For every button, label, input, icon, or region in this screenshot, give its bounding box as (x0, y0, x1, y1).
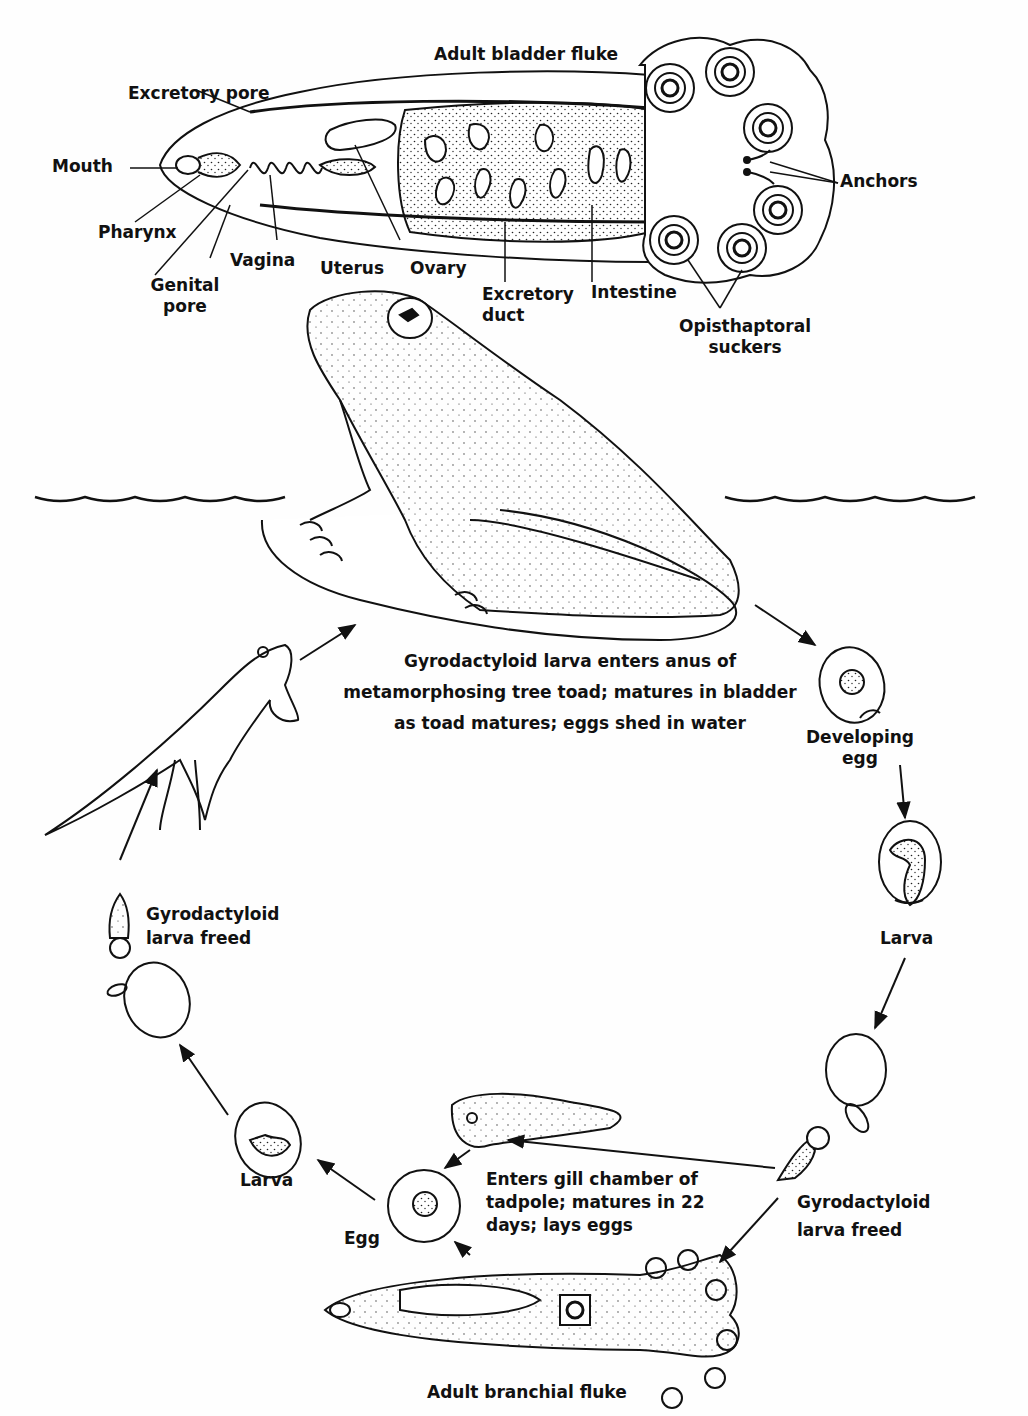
label-uterus: Uterus (320, 258, 384, 279)
label-vagina: Vagina (230, 250, 295, 271)
label-larva-left: Larva (240, 1170, 293, 1191)
empty-egg-right (826, 1034, 886, 1136)
gyrodactyloid-larva-left (109, 894, 130, 958)
label-opisthaptoral-suckers: Opisthaptoral suckers (665, 316, 825, 358)
empty-egg-left (106, 953, 200, 1046)
label-mouth: Mouth (52, 156, 113, 177)
tadpole (452, 1094, 621, 1147)
caption-toad-stage: Gyrodactyloid larva enters anus of metam… (340, 646, 800, 739)
label-anchors: Anchors (840, 171, 918, 192)
label-larva-freed-left: Gyrodactyloid larva freed (146, 902, 280, 950)
label-pharynx: Pharynx (98, 222, 177, 243)
title-adult-bladder-fluke: Adult bladder fluke (434, 44, 618, 65)
caption-tadpole-stage: Enters gill chamber of tadpole; matures … (486, 1168, 705, 1237)
developing-egg (811, 640, 892, 730)
label-egg: Egg (344, 1228, 380, 1249)
label-excretory-duct: Excretory duct (482, 284, 574, 326)
life-cycle-diagram: Adult bladder fluke Excretory pore Mouth… (0, 0, 1028, 1416)
label-developing-egg: Developing egg (805, 727, 915, 769)
label-genital-pore: Genital pore (140, 275, 230, 317)
label-larva-right: Larva (880, 928, 933, 949)
label-larva-freed-right: Gyrodactyloid larva freed (797, 1188, 931, 1244)
metamorphosing-toad (45, 645, 298, 835)
label-adult-branchial-fluke: Adult branchial fluke (427, 1382, 627, 1403)
larva-in-egg-right (879, 821, 941, 905)
label-excretory-pore: Excretory pore (128, 83, 270, 104)
egg-center (388, 1170, 460, 1242)
label-intestine: Intestine (591, 282, 677, 303)
gyrodactyloid-larva-right (778, 1127, 829, 1180)
label-ovary: Ovary (410, 258, 466, 279)
